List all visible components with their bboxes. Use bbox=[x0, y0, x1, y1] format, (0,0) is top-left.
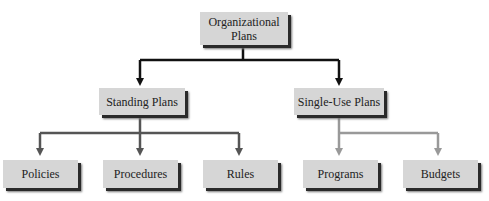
node-label: Plans bbox=[231, 29, 257, 43]
node-standing-plans: Standing Plans bbox=[99, 88, 185, 115]
node-budgets: Budgets bbox=[403, 160, 478, 188]
node-policies: Policies bbox=[3, 160, 78, 188]
node-label: Budgets bbox=[421, 167, 460, 181]
node-programs: Programs bbox=[303, 160, 378, 188]
node-label: Single-Use Plans bbox=[298, 95, 380, 109]
node-label: Standing Plans bbox=[106, 95, 178, 109]
node-single-use-plans: Single-Use Plans bbox=[294, 88, 384, 115]
node-label: Procedures bbox=[114, 167, 167, 181]
node-label: Rules bbox=[227, 167, 254, 181]
node-label: Policies bbox=[22, 167, 60, 181]
node-label: Programs bbox=[318, 167, 364, 181]
node-label: Organizational bbox=[208, 15, 279, 29]
node-rules: Rules bbox=[203, 160, 278, 188]
node-organizational-plans: Organizational Plans bbox=[200, 12, 288, 45]
node-procedures: Procedures bbox=[103, 160, 178, 188]
